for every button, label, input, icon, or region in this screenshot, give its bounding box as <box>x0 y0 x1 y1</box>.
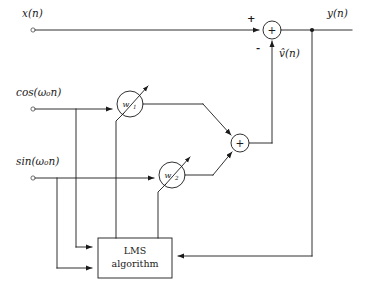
input-terminal-cos[interactable] <box>31 107 35 111</box>
weight-w2-circle <box>159 162 185 188</box>
sign-minus-estimate: - <box>256 42 260 53</box>
figure-root: x(n) + + y(n) - v̂(n) cos(ω₀n) <box>0 0 374 291</box>
weight-w1-subscript: 1 <box>133 104 137 110</box>
wire-lms-update-w1 <box>116 113 124 238</box>
output-y-branch: y(n) <box>281 7 352 32</box>
label-input-x: x(n) <box>22 7 43 19</box>
label-input-cos: cos(ω₀n) <box>16 86 61 98</box>
lms-algorithm-block[interactable]: LMS algorithm <box>98 238 172 278</box>
input-terminal-x[interactable] <box>31 28 35 32</box>
lms-block-line2: algorithm <box>111 258 158 269</box>
wire-lms-update-w2 <box>158 184 166 238</box>
weight-w1-circle <box>117 91 143 117</box>
label-estimate-v: v̂(n) <box>279 47 300 59</box>
block-diagram: x(n) + + y(n) - v̂(n) cos(ω₀n) <box>0 0 374 291</box>
summing-junction-plus-symbol: + <box>268 24 277 36</box>
adaptive-weight-w1[interactable]: w 1 <box>117 86 231 135</box>
wire-w1-to-mid-adder <box>203 104 231 135</box>
label-input-sin: sin(ω₀n) <box>16 155 59 167</box>
input-x-branch: x(n) + <box>22 7 259 32</box>
weight-w2-subscript: 2 <box>174 175 179 181</box>
top-summing-junction[interactable]: + <box>263 21 281 39</box>
lms-block-line1: LMS <box>124 245 147 256</box>
middle-summing-plus-symbol: + <box>236 137 245 149</box>
middle-summing-junction[interactable]: + <box>231 134 249 152</box>
sign-plus-x-input: + <box>247 13 255 24</box>
label-output-y: y(n) <box>326 7 348 19</box>
adaptive-weight-w2[interactable]: w 2 <box>159 152 232 188</box>
weight-update-paths <box>116 113 166 238</box>
wire-w2-to-mid-adder <box>213 152 232 175</box>
input-terminal-sin[interactable] <box>31 176 35 180</box>
noise-estimate-branch: - v̂(n) <box>249 41 300 143</box>
